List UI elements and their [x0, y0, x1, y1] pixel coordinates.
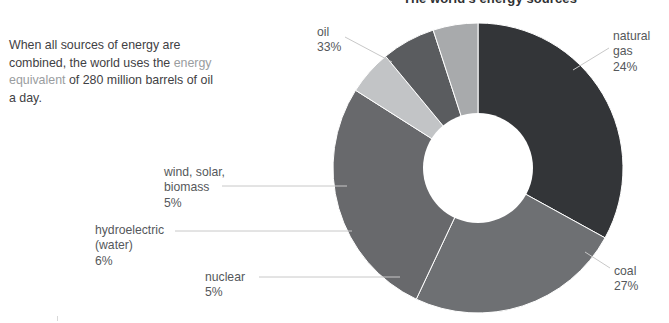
slice-label-natural-gas: natural gas 24%: [613, 29, 650, 75]
chart-canvas: The world's energy sources When all sour…: [0, 0, 669, 323]
corner-tick-mark: [57, 316, 58, 321]
intro-line-1: When all sources of energy: [9, 38, 159, 52]
slice-label-natural-gas-name-1: natural: [613, 29, 650, 44]
slice-label-wind-solar-biomass: wind, solar, biomass 5%: [164, 165, 225, 211]
slice-label-oil-name: oil: [317, 25, 341, 40]
page-title: The world's energy sources: [330, 0, 650, 6]
slice-label-hydro-name-2: (water): [95, 238, 164, 253]
slice-label-nuclear-percent: 5%: [205, 285, 245, 300]
slice-label-nuclear-name: nuclear: [205, 270, 245, 285]
slice-label-wind-name-1: wind, solar,: [164, 165, 225, 180]
donut-hole: [423, 113, 533, 223]
slice-label-natural-gas-name-2: gas: [613, 44, 650, 59]
slice-label-wind-percent: 5%: [164, 196, 225, 211]
slice-label-coal: coal 27%: [614, 264, 638, 295]
slice-label-natural-gas-percent: 24%: [613, 60, 650, 75]
slice-label-hydro-percent: 6%: [95, 254, 164, 269]
slice-label-hydroelectric: hydroelectric (water) 6%: [95, 223, 164, 269]
intro-line-3-post: of 280: [66, 73, 104, 87]
slice-label-oil-percent: 33%: [317, 40, 341, 55]
slice-label-hydro-name-1: hydroelectric: [95, 223, 164, 238]
donut-svg: [333, 23, 623, 313]
intro-paragraph: When all sources of energy are combined,…: [9, 37, 214, 107]
slice-label-oil: oil 33%: [317, 25, 341, 56]
slice-label-wind-name-2: biomass: [164, 180, 225, 195]
slice-label-coal-name: coal: [614, 264, 638, 279]
intro-line-3-pre: the: [153, 56, 174, 70]
slice-label-coal-percent: 27%: [614, 279, 638, 294]
slice-label-nuclear: nuclear 5%: [205, 270, 245, 301]
donut-chart: [333, 23, 623, 313]
